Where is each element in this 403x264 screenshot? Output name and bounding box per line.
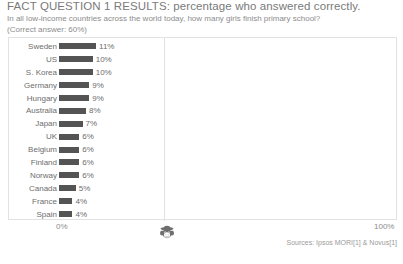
bar-category-label: Finland [9, 158, 57, 167]
bar-fill [59, 95, 89, 101]
bar-fill [59, 147, 79, 153]
bar-track: 6% [59, 130, 398, 143]
bar-category-label: UK [9, 132, 57, 141]
bar-value-label: 9% [92, 94, 104, 103]
bar-value-label: 4% [75, 210, 87, 219]
bar-value-label: 4% [75, 197, 87, 206]
bar-row: UK6% [9, 130, 398, 143]
bar-category-label: France [9, 197, 57, 206]
bar-track: 5% [59, 182, 398, 195]
bar-track: 11% [59, 40, 398, 53]
monkey-face-icon [157, 222, 177, 240]
bar-row: Norway6% [9, 169, 398, 182]
bar-value-label: 6% [82, 145, 94, 154]
axis-tick-min: 0% [56, 222, 68, 231]
bar-value-label: 6% [82, 132, 94, 141]
bar-row: Spain4% [9, 208, 398, 221]
bar-track: 4% [59, 195, 398, 208]
page-title: FACT QUESTION 1 RESULTS: percentage who … [7, 0, 399, 13]
bar-row: Germany9% [9, 79, 398, 92]
bar-category-label: US [9, 55, 57, 64]
bar-fill [59, 56, 93, 62]
bar-row: S. Korea10% [9, 66, 398, 79]
bar-category-label: Sweden [9, 42, 57, 51]
bar-fill [59, 82, 89, 88]
correct-answer-note: (Correct answer: 60%) [7, 24, 399, 35]
bar-category-label: Canada [9, 184, 57, 193]
chart-header: FACT QUESTION 1 RESULTS: percentage who … [7, 0, 399, 35]
chart-plot-area: Sweden11%US10%S. Korea10%Germany9%Hungar… [8, 37, 397, 220]
bar-category-label: S. Korea [9, 68, 57, 77]
bar-value-label: 11% [99, 42, 114, 51]
bar-row: Finland6% [9, 156, 398, 169]
bar-category-label: Belgium [9, 145, 57, 154]
bar-category-label: Germany [9, 81, 57, 90]
bar-fill [59, 185, 76, 191]
bar-row: France4% [9, 195, 398, 208]
bar-track: 10% [59, 53, 398, 66]
bar-track: 8% [59, 104, 398, 117]
bar-fill [59, 108, 86, 114]
bar-list: Sweden11%US10%S. Korea10%Germany9%Hungar… [9, 40, 398, 220]
bar-fill [59, 69, 93, 75]
axis-tick-max: 100% [374, 222, 394, 231]
sources-note: Sources: Ipsos MORI[1] & Novus[1] [287, 239, 398, 246]
bar-row: Australia8% [9, 104, 398, 117]
bar-track: 10% [59, 66, 398, 79]
bar-value-label: 6% [82, 158, 94, 167]
bar-value-label: 6% [82, 171, 94, 180]
bar-value-label: 5% [79, 184, 91, 193]
bar-row: Belgium6% [9, 143, 398, 156]
chart-subtitle: In all low-income countries across the w… [7, 13, 399, 24]
bar-category-label: Japan [9, 119, 57, 128]
bar-row: US10% [9, 53, 398, 66]
bar-track: 6% [59, 156, 398, 169]
bar-fill [59, 159, 79, 165]
bar-row: Hungary9% [9, 92, 398, 105]
bar-value-label: 10% [96, 55, 112, 64]
bar-track: 9% [59, 79, 398, 92]
bar-fill [59, 134, 79, 140]
bar-track: 9% [59, 92, 398, 105]
bar-category-label: Australia [9, 106, 57, 115]
bar-track: 4% [59, 208, 398, 221]
bar-row: Canada5% [9, 182, 398, 195]
bar-category-label: Hungary [9, 94, 57, 103]
bar-row: Japan7% [9, 117, 398, 130]
bar-fill [59, 198, 72, 204]
bar-track: 7% [59, 117, 398, 130]
bar-fill [59, 43, 96, 49]
bar-track: 6% [59, 169, 398, 182]
bar-row: Sweden11% [9, 40, 398, 53]
bar-category-label: Spain [9, 210, 57, 219]
bar-value-label: 8% [89, 106, 101, 115]
bar-track: 6% [59, 143, 398, 156]
bar-fill [59, 211, 72, 217]
bar-fill [59, 172, 79, 178]
bar-value-label: 10% [96, 68, 112, 77]
bar-value-label: 9% [92, 81, 104, 90]
bar-category-label: Norway [9, 171, 57, 180]
bar-fill [59, 121, 83, 127]
bar-value-label: 7% [86, 119, 98, 128]
